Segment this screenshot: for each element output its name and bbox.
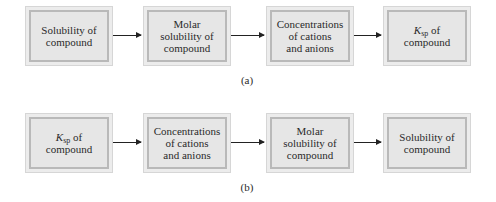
ksp-compound: compound	[404, 36, 450, 48]
ksp-of: of	[70, 131, 82, 143]
arrow-icon	[354, 35, 381, 36]
ksp-compound: compound	[46, 143, 92, 155]
a-box-concentrations-text: Concentrations of cations and anions	[270, 10, 350, 62]
arrow-icon	[231, 35, 264, 36]
arrow-icon	[113, 142, 141, 143]
a-box-concentrations: Concentrations of cations and anions	[266, 6, 354, 66]
b-box-concentrations: Concentrations of cations and anions	[143, 113, 231, 173]
a-box-solubility: Solubility of compound	[25, 6, 113, 66]
b-box-solubility: Solubility of compound	[383, 113, 471, 173]
b-box-solubility-text: Solubility of compound	[387, 117, 467, 169]
b-box-concentrations-text: Concentrations of cations and anions	[147, 117, 227, 169]
a-box-ksp-text: Ksp ofcompound	[387, 10, 467, 62]
a-box-ksp: Ksp ofcompound	[383, 6, 471, 66]
label-a: (a)	[232, 74, 262, 86]
b-box-ksp-text: Ksp ofcompound	[29, 117, 109, 169]
a-box-solubility-text: Solubility of compound	[29, 10, 109, 62]
arrow-icon	[354, 142, 381, 143]
label-b: (b)	[232, 181, 262, 193]
a-box-molar-solubility: Molar solubility of compound	[143, 6, 231, 66]
b-box-molar-solubility: Molar solubility of compound	[266, 113, 354, 173]
arrow-icon	[231, 142, 264, 143]
ksp-of: of	[428, 24, 440, 36]
arrow-icon	[113, 35, 141, 36]
a-box-molar-solubility-text: Molar solubility of compound	[147, 10, 227, 62]
b-box-molar-solubility-text: Molar solubility of compound	[270, 117, 350, 169]
b-box-ksp: Ksp ofcompound	[25, 113, 113, 173]
